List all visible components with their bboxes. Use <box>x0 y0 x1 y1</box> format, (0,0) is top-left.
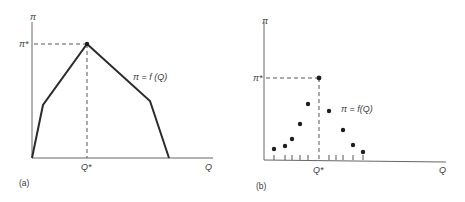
x-axis-label: Q <box>439 165 446 175</box>
function-label: π = f (Q) <box>133 72 167 82</box>
diagram-canvas: π π* π = f (Q) Q* Q (a) <box>0 0 465 202</box>
data-point <box>283 144 287 148</box>
x-axis-label: Q <box>205 162 212 172</box>
data-point <box>361 150 365 154</box>
maximum-point <box>317 76 322 81</box>
data-point <box>290 137 294 141</box>
panel-a: π π* π = f (Q) Q* Q (a) <box>19 12 213 188</box>
data-point <box>298 122 302 126</box>
data-point <box>272 147 276 151</box>
pi-star-label: π* <box>19 39 29 49</box>
x-axis <box>264 160 446 162</box>
q-star-label: Q* <box>81 162 92 172</box>
data-point <box>351 143 355 147</box>
y-axis-label: π <box>262 16 269 26</box>
maximum-point <box>85 42 89 46</box>
panel-b: π π* π = f(Q) Q* Q (b) <box>253 16 446 191</box>
pi-star-label: π* <box>253 73 263 83</box>
panel-label: (b) <box>256 181 267 191</box>
data-point <box>341 128 345 132</box>
data-point <box>327 109 331 113</box>
data-point <box>306 102 310 106</box>
profit-curve <box>32 44 169 158</box>
q-star-label: Q* <box>313 165 324 175</box>
y-axis-label: π <box>30 12 37 22</box>
function-label: π = f(Q) <box>341 104 373 114</box>
panel-label: (a) <box>19 178 30 188</box>
